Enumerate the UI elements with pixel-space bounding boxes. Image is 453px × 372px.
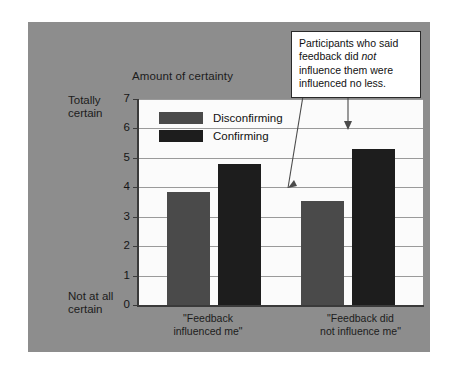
legend-swatch-disconfirming <box>159 112 203 124</box>
bar-disconfirming-group-0 <box>167 192 210 305</box>
y-tick-label-4: 4 <box>112 181 130 193</box>
legend-item-disconfirming: Disconfirming <box>159 112 283 124</box>
y-tick-mark-2 <box>133 246 137 247</box>
gridline-7 <box>138 99 423 100</box>
x-axis-category-1: "Feedback did not influence me" <box>293 312 428 338</box>
y-tick-label-6: 6 <box>112 122 130 134</box>
x-axis-line <box>137 305 424 307</box>
callout-text-emphasis: not <box>361 50 376 62</box>
legend-swatch-confirming <box>159 130 203 142</box>
callout-annotation: Participants who said feedback did not i… <box>291 31 421 98</box>
y-tick-label-0: 0 <box>112 299 130 311</box>
callout-text-prefix: Participants who said feedback did <box>299 37 398 62</box>
y-axis-anchor-high: Totally certain <box>68 94 103 120</box>
y-tick-mark-3 <box>133 217 137 218</box>
bar-disconfirming-group-1 <box>301 201 344 306</box>
y-axis-line <box>137 99 139 306</box>
bar-confirming-group-0 <box>218 164 261 305</box>
y-axis-anchor-low: Not at all certain <box>68 290 113 316</box>
y-tick-mark-4 <box>133 187 137 188</box>
y-tick-mark-0 <box>133 305 137 306</box>
y-tick-mark-1 <box>133 276 137 277</box>
legend-label-confirming: Confirming <box>213 130 269 142</box>
y-tick-label-1: 1 <box>112 270 130 282</box>
y-tick-mark-7 <box>133 99 137 100</box>
chart-legend: Disconfirming Confirming <box>159 112 283 142</box>
y-tick-label-5: 5 <box>112 152 130 164</box>
y-tick-mark-6 <box>133 128 137 129</box>
legend-item-confirming: Confirming <box>159 130 283 142</box>
y-tick-label-7: 7 <box>112 93 130 105</box>
y-tick-label-3: 3 <box>112 211 130 223</box>
legend-label-disconfirming: Disconfirming <box>213 112 283 124</box>
x-axis-category-0: "Feedback influenced me" <box>148 312 268 338</box>
y-axis-title: Amount of certainty <box>132 70 233 82</box>
y-tick-label-2: 2 <box>112 240 130 252</box>
bar-confirming-group-1 <box>352 149 395 305</box>
y-tick-mark-5 <box>133 158 137 159</box>
callout-text-suffix: influence them were influenced no less. <box>299 64 393 89</box>
